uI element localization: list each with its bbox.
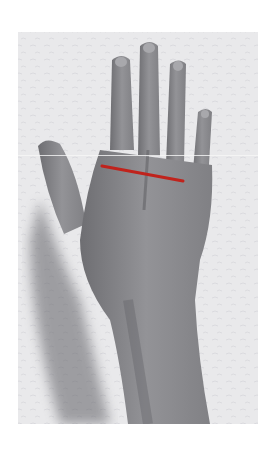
scan-seam xyxy=(18,155,258,156)
hand-photo xyxy=(18,32,258,424)
